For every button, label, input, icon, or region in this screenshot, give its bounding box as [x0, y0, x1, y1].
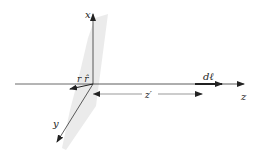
z-prime-label: z′	[144, 90, 152, 100]
x-axis-label: x	[85, 9, 91, 20]
y-axis-label: y	[52, 118, 59, 129]
dl-label: dℓ	[203, 71, 214, 82]
r-vector-label: r r̂	[77, 74, 89, 84]
coordinate-diagram: x y z r r̂ dℓ z′	[0, 0, 262, 150]
z-axis-label: z	[240, 91, 247, 102]
